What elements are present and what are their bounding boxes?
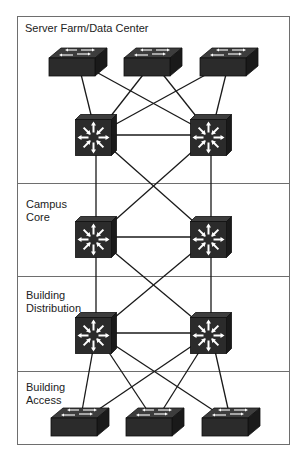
sf-sw2-layer2-switch-icon[interactable] (124, 48, 182, 76)
acc-sw3-layer2-switch-icon[interactable] (202, 408, 260, 436)
sf-sw3-layer2-switch-icon[interactable] (200, 48, 258, 76)
dist-ml1-multilayer-switch-icon[interactable] (76, 313, 117, 354)
acc-sw2-layer2-switch-icon[interactable] (126, 408, 184, 436)
dist-ml2-multilayer-switch-icon[interactable] (191, 313, 232, 354)
network-hierarchy-diagram: Server Farm/Data Center Campus Core Buil… (0, 0, 306, 456)
acc-sw1-layer2-switch-icon[interactable] (51, 408, 109, 436)
core-ml1-multilayer-switch-icon[interactable] (76, 217, 117, 258)
sf-ml2-multilayer-switch-icon[interactable] (191, 115, 232, 156)
sf-ml1-multilayer-switch-icon[interactable] (76, 115, 117, 156)
devices-layer (0, 0, 306, 456)
sf-sw1-layer2-switch-icon[interactable] (49, 48, 107, 76)
core-ml2-multilayer-switch-icon[interactable] (191, 217, 232, 258)
